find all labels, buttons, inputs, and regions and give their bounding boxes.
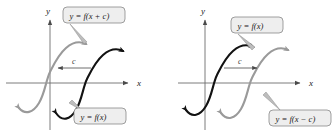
x-axis-label: x	[308, 78, 313, 88]
callout-original-label: y = f(x)	[80, 112, 107, 122]
callout-shifted-label: y = f(x + c)	[69, 11, 110, 21]
shift-arrow-label: c	[238, 57, 242, 66]
translation-figure: x y c y = f(x + c) y = f(x) x y c	[0, 0, 335, 139]
y-axis-label: y	[45, 6, 50, 16]
y-axis-label: y	[200, 6, 205, 16]
callout-original-label: y = f(x)	[237, 21, 264, 31]
x-axis-label: x	[136, 78, 141, 88]
callout-shifted-label: y = f(x − c)	[275, 114, 316, 124]
shift-arrow-label: c	[72, 57, 76, 66]
